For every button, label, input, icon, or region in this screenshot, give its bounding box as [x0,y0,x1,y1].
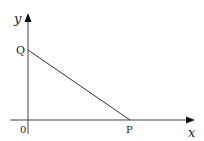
x-axis-label: x [188,125,196,140]
y-axis-arrow-icon [25,13,32,22]
x-axis-arrow-icon [186,117,195,124]
y-axis-label: y [13,11,22,26]
point-q-label: Q [16,44,25,57]
point-p-label: P [126,124,133,135]
coordinate-diagram: y x 0 Q P [0,0,204,141]
origin-label: 0 [20,124,26,135]
segment-qp [28,50,130,120]
